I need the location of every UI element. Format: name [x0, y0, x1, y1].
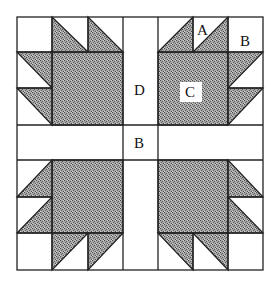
- triangle-a: [228, 160, 263, 197]
- triangle-a: [88, 17, 123, 52]
- piece-c-top-left: [52, 52, 123, 125]
- triangle-a: [158, 233, 193, 270]
- triangle-a: [88, 233, 123, 270]
- label-a: A: [197, 22, 208, 38]
- paw-bottom-left: [17, 160, 123, 270]
- triangle-a: [228, 197, 263, 233]
- triangle-a: [228, 88, 263, 125]
- piece-c-bottom-left: [52, 160, 123, 233]
- triangle-a: [17, 197, 52, 233]
- triangle-a: [17, 160, 52, 197]
- piece-c-bottom-right: [158, 160, 228, 233]
- triangle-a: [193, 233, 228, 270]
- label-b-sash: B: [134, 135, 144, 151]
- paw-top-left: [17, 17, 123, 125]
- label-b-corner: B: [240, 33, 250, 49]
- quilt-block-diagram: A B C D B: [0, 0, 271, 287]
- paw-bottom-right: [158, 160, 263, 270]
- triangle-a: [52, 233, 88, 270]
- triangle-a: [52, 17, 88, 52]
- triangle-a: [158, 17, 193, 52]
- label-c: C: [185, 84, 195, 100]
- label-d: D: [134, 82, 145, 98]
- triangle-a: [228, 52, 263, 88]
- triangle-a: [17, 88, 52, 125]
- triangle-a: [17, 52, 52, 88]
